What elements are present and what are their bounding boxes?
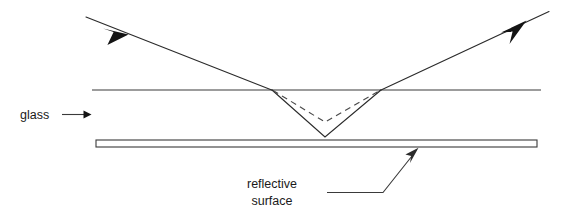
refracted-ray-dashed <box>273 91 380 123</box>
incident-ray-line <box>86 17 273 91</box>
reflective-surface-leader <box>327 148 419 193</box>
glass-pointer-arrow-icon <box>62 111 92 119</box>
incident-ray-arrow-icon <box>103 28 129 45</box>
glass-label: glass <box>20 108 49 122</box>
diagram-canvas: glass reflective surface <box>0 0 576 223</box>
reflection-diagram: glass reflective surface <box>0 0 576 223</box>
refracted-ray-solid <box>272 90 381 137</box>
reflective-surface-label-line1: reflective <box>247 177 297 191</box>
reflective-surface-bar <box>96 140 537 147</box>
reflective-surface-arrow-icon <box>405 148 418 163</box>
reflective-surface-label-line2: surface <box>252 194 293 208</box>
